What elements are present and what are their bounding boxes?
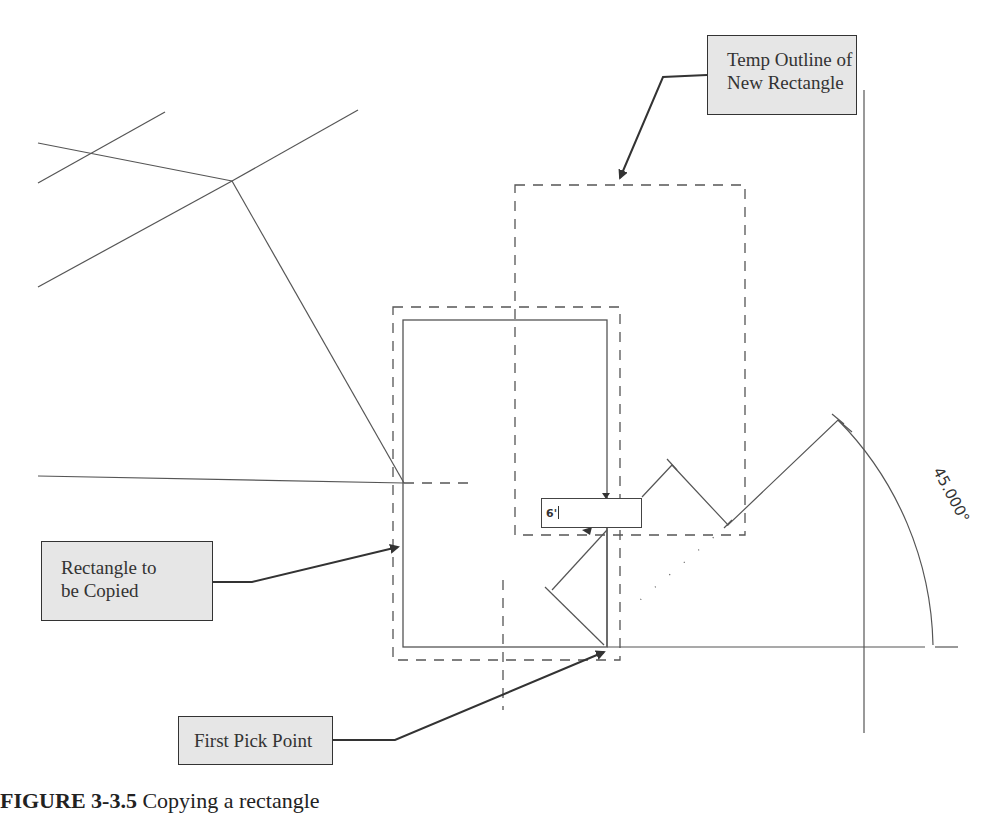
baseline (607, 90, 958, 733)
text-caret (558, 506, 559, 519)
figure-caption-text: Copying a rectangle (142, 788, 319, 813)
selection-outline (393, 307, 620, 660)
callout-rectangle-to-copy: Rectangle to be Copied (41, 541, 213, 621)
callout-rectangle-line2: be Copied (61, 579, 212, 602)
dimension-input[interactable]: 6' (541, 498, 642, 528)
callout-temp-outline-line1: Temp Outline of (727, 48, 856, 71)
temp-outline-new-rectangle (503, 185, 745, 710)
angle-label: 45.000° (929, 464, 973, 525)
original-rectangle[interactable] (403, 320, 607, 647)
figure-caption: FIGURE 3-3.5 Copying a rectangle (0, 788, 1000, 814)
figure-caption-label: FIGURE 3-3.5 (0, 788, 137, 813)
callout-temp-outline: Temp Outline of New Rectangle (707, 35, 857, 115)
callout-first-pick-point: First Pick Point (178, 716, 333, 765)
callout-rectangle-line1: Rectangle to (61, 556, 212, 579)
angle-arc (838, 420, 933, 645)
existing-walls (38, 110, 404, 483)
dimension-input-value: 6' (546, 507, 557, 520)
callout-temp-outline-line2: New Rectangle (727, 71, 856, 94)
callout-leaders (213, 75, 707, 740)
callout-first-pick-point-text: First Pick Point (194, 729, 332, 752)
